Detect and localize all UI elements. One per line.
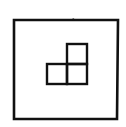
diagram-canvas [0,0,126,127]
tick-mark [73,19,75,22]
